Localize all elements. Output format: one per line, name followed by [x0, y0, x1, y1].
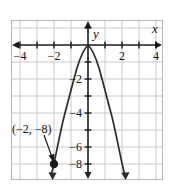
- x-tick-label--4: −4: [14, 49, 27, 63]
- x-tick-label--2: −2: [48, 49, 61, 63]
- x-axis-label: x: [151, 21, 158, 36]
- y-tick-label--6: −6: [69, 140, 82, 154]
- x-tick-label-2: 2: [119, 49, 125, 63]
- x-tick-label-4: 4: [153, 49, 159, 63]
- y-axis-label: y: [91, 26, 99, 41]
- y-tick-label--2: −2: [69, 72, 82, 86]
- graph-figure: −4 −2 2 4 −2 −4 −6 −8 y x (−2, −8): [0, 0, 173, 191]
- point-coordinate-label: (−2, −8): [12, 122, 52, 136]
- coordinate-plane-svg: −4 −2 2 4 −2 −4 −6 −8 y x (−2, −8): [0, 0, 173, 191]
- y-tick-label--4: −4: [69, 106, 82, 120]
- y-tick-label--8: −8: [69, 157, 82, 171]
